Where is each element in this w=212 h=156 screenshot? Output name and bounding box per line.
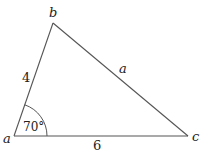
triangle-diagram: b a c 4 a 6 70°: [0, 0, 212, 156]
side-label-ac: 6: [93, 138, 101, 153]
side-label-bc: a: [119, 61, 127, 76]
angle-label: 70°: [23, 120, 44, 134]
side-label-ab: 4: [22, 70, 30, 85]
side-bc: [53, 23, 188, 136]
vertex-label-c: c: [192, 129, 200, 144]
vertex-label-b: b: [49, 5, 57, 20]
vertex-label-a: a: [3, 131, 11, 146]
